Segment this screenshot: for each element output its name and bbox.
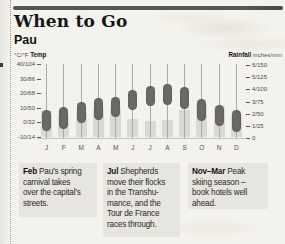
note-box: Nov–Mar Peakskiing season –book hotels w… (188, 163, 268, 209)
month-label: F (56, 144, 72, 151)
note-line: in the Transhu- (107, 188, 176, 199)
temp-tick-label: 30/86 (2, 76, 35, 82)
rain-tick-label: 3/75 (252, 99, 282, 105)
note-label: Jul (107, 167, 120, 176)
rain-tick-dash (246, 65, 250, 66)
temp-range-pill (128, 90, 137, 110)
temp-tick-label: -10/14 (2, 134, 35, 140)
note-line: Feb Pau’s spring (23, 167, 93, 178)
rain-tick-dash (246, 102, 250, 103)
temp-tick-label: 20/68 (2, 90, 35, 96)
temp-range-pill (94, 98, 103, 120)
note-box: Jul Shepherdsmove their flocksin the Tra… (103, 163, 180, 237)
month-label: A (159, 144, 175, 151)
note-line: over the capital’s (23, 188, 93, 199)
temp-range-pill (111, 97, 120, 117)
temp-range-pill (146, 86, 155, 106)
temp-range-pill (59, 107, 68, 129)
temp-tick-dash (37, 64, 41, 65)
rain-tick-label: 1/25 (252, 123, 282, 129)
month-label: A (90, 144, 106, 151)
month-label: S (177, 144, 193, 151)
temp-range-pill (163, 84, 172, 104)
note-line: streets. (23, 199, 93, 210)
month-label: J (125, 144, 141, 151)
note-label: Nov–Mar (192, 167, 227, 176)
month-label: J (142, 144, 158, 151)
note-box: Feb Pau’s springcarnival takesover the c… (19, 163, 97, 217)
month-gridline (219, 64, 220, 138)
temp-range-pill (77, 102, 86, 124)
note-line: mance, and the (107, 199, 176, 210)
month-label: O (194, 144, 210, 151)
rain-tick-dash (246, 114, 250, 115)
rain-tick-label: 2/50 (252, 111, 282, 117)
note-line: races through. (107, 220, 176, 231)
note-line: Tour de France (107, 209, 176, 220)
temp-tick-label: 0/32 (2, 119, 35, 125)
note-line: carnival takes (23, 178, 93, 189)
note-line: skiing season – (192, 178, 264, 189)
temp-tick-dash (37, 79, 41, 80)
rain-tick-dash (246, 138, 250, 139)
rain-tick-label: 0 (252, 135, 282, 141)
note-line: Jul Shepherds (107, 167, 176, 178)
note-line: book hotels well (192, 188, 264, 199)
note-line: ahead. (192, 199, 264, 210)
month-label: D (228, 144, 244, 151)
rain-tick-label: 6/150 (252, 62, 282, 68)
scanned-guidebook-page: When to Go Pau °C/°F Temp Rainfall inche… (0, 0, 285, 244)
rain-tick-dash (246, 77, 250, 78)
temp-range-pill (180, 87, 189, 109)
month-label: M (108, 144, 124, 151)
temp-tick-label: 10/50 (2, 105, 35, 111)
temp-tick-dash (37, 93, 41, 94)
temp-range-pill (42, 110, 51, 131)
month-label: N (211, 144, 227, 151)
temp-range-pill (232, 110, 241, 132)
note-line: Nov–Mar Peak (192, 167, 264, 178)
note-label: Feb (23, 167, 39, 176)
rain-tick-label: 5/125 (252, 74, 282, 80)
month-gridline (81, 64, 82, 138)
rain-tick-dash (246, 126, 250, 127)
chart-baseline (38, 138, 245, 139)
month-label: J (39, 144, 55, 151)
temp-range-pill (197, 99, 206, 121)
rain-tick-label: 4/100 (252, 86, 282, 92)
note-line: move their flocks (107, 178, 176, 189)
temp-tick-dash (37, 108, 41, 109)
rain-tick-dash (246, 89, 250, 90)
month-label: M (73, 144, 89, 151)
temp-range-pill (215, 105, 224, 127)
temp-tick-label: 40/104 (2, 61, 35, 67)
